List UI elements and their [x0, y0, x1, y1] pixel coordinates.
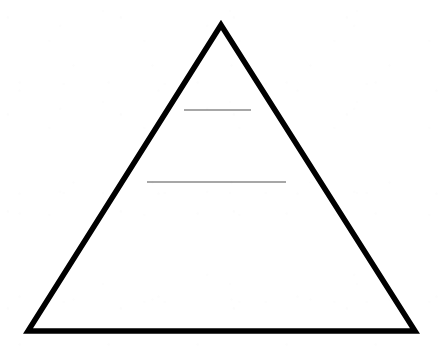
pyramid-tier-top[interactable]	[184, 30, 258, 106]
pyramid-diagram-canvas	[0, 0, 441, 351]
pyramid-tier-bottom[interactable]	[38, 184, 404, 328]
pyramid-tier-middle[interactable]	[147, 112, 295, 180]
